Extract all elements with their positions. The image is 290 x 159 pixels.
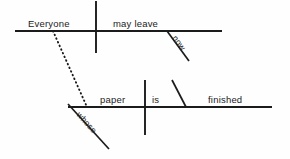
possessive-whose-label: whose [74, 109, 99, 135]
predicate-adjective-slant-line [172, 80, 186, 107]
relative-clause-linking-verb-label: is [152, 94, 159, 105]
predicate-adjective-label: finished [208, 94, 242, 105]
main-clause-group: Everyone may leave now [15, 1, 222, 61]
main-clause-verb-label: may leave [113, 18, 158, 29]
relative-clause-connector-dotted-line [53, 31, 87, 107]
sentence-diagram-canvas: Everyone may leave now paper is finished… [0, 0, 290, 159]
relative-clause-group: paper is finished whose [68, 80, 272, 149]
adverb-now-label: now [170, 33, 188, 53]
relative-clause-subject-label: paper [100, 94, 125, 105]
main-clause-subject-label: Everyone [28, 18, 70, 29]
sentence-diagram: Everyone may leave now paper is finished… [0, 0, 290, 159]
